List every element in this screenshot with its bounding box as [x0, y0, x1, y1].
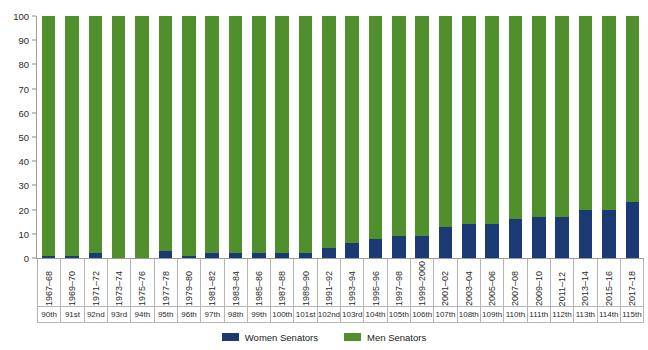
- legend-item[interactable]: Women Senators: [222, 332, 318, 343]
- bar-stack[interactable]: [205, 16, 219, 258]
- bar-stack[interactable]: [602, 16, 616, 258]
- bar-column[interactable]: [270, 16, 293, 258]
- bar-column[interactable]: [130, 16, 153, 258]
- bar-column[interactable]: [37, 16, 60, 258]
- bar-stack[interactable]: [415, 16, 429, 258]
- bar-segment-women-senators[interactable]: [485, 224, 499, 258]
- bar-segment-women-senators[interactable]: [65, 256, 79, 258]
- bar-segment-men-senators[interactable]: [299, 16, 313, 253]
- bar-segment-women-senators[interactable]: [369, 239, 383, 258]
- bar-segment-women-senators[interactable]: [415, 236, 429, 258]
- bar-segment-women-senators[interactable]: [626, 202, 640, 258]
- bar-stack[interactable]: [299, 16, 313, 258]
- bar-segment-women-senators[interactable]: [555, 217, 569, 258]
- bar-column[interactable]: [551, 16, 574, 258]
- bar-segment-women-senators[interactable]: [182, 256, 196, 258]
- bar-column[interactable]: [247, 16, 270, 258]
- bar-column[interactable]: [434, 16, 457, 258]
- bar-column[interactable]: [387, 16, 410, 258]
- bar-segment-men-senators[interactable]: [415, 16, 429, 236]
- bar-stack[interactable]: [345, 16, 359, 258]
- bar-column[interactable]: [597, 16, 620, 258]
- bar-segment-women-senators[interactable]: [532, 217, 546, 258]
- bar-column[interactable]: [527, 16, 550, 258]
- bar-segment-men-senators[interactable]: [485, 16, 499, 224]
- bar-column[interactable]: [84, 16, 107, 258]
- bar-segment-men-senators[interactable]: [345, 16, 359, 243]
- bar-column[interactable]: [154, 16, 177, 258]
- bar-segment-men-senators[interactable]: [112, 16, 126, 258]
- bar-column[interactable]: [504, 16, 527, 258]
- bar-segment-women-senators[interactable]: [275, 253, 289, 258]
- bar-segment-women-senators[interactable]: [159, 251, 173, 258]
- bar-stack[interactable]: [322, 16, 336, 258]
- bar-column[interactable]: [621, 16, 644, 258]
- bar-segment-women-senators[interactable]: [602, 210, 616, 258]
- bar-segment-men-senators[interactable]: [229, 16, 243, 253]
- bar-column[interactable]: [294, 16, 317, 258]
- bar-stack[interactable]: [532, 16, 546, 258]
- bar-segment-men-senators[interactable]: [135, 16, 149, 258]
- bar-stack[interactable]: [579, 16, 593, 258]
- bar-segment-women-senators[interactable]: [392, 236, 406, 258]
- bar-segment-men-senators[interactable]: [392, 16, 406, 236]
- bar-segment-men-senators[interactable]: [322, 16, 336, 248]
- bar-segment-women-senators[interactable]: [345, 243, 359, 258]
- bar-stack[interactable]: [229, 16, 243, 258]
- bar-column[interactable]: [224, 16, 247, 258]
- bar-stack[interactable]: [439, 16, 453, 258]
- bar-stack[interactable]: [555, 16, 569, 258]
- bar-column[interactable]: [574, 16, 597, 258]
- bar-segment-women-senators[interactable]: [205, 253, 219, 258]
- bar-segment-men-senators[interactable]: [439, 16, 453, 227]
- bar-segment-women-senators[interactable]: [439, 227, 453, 258]
- bar-segment-women-senators[interactable]: [299, 253, 313, 258]
- bar-segment-women-senators[interactable]: [322, 248, 336, 258]
- bar-stack[interactable]: [42, 16, 56, 258]
- bar-stack[interactable]: [182, 16, 196, 258]
- bar-stack[interactable]: [65, 16, 79, 258]
- bar-segment-men-senators[interactable]: [532, 16, 546, 217]
- bar-column[interactable]: [364, 16, 387, 258]
- bar-stack[interactable]: [392, 16, 406, 258]
- bar-segment-men-senators[interactable]: [89, 16, 103, 253]
- bar-column[interactable]: [60, 16, 83, 258]
- bar-segment-women-senators[interactable]: [579, 210, 593, 258]
- bar-column[interactable]: [200, 16, 223, 258]
- bar-stack[interactable]: [275, 16, 289, 258]
- bar-column[interactable]: [177, 16, 200, 258]
- bar-segment-women-senators[interactable]: [89, 253, 103, 258]
- bar-segment-men-senators[interactable]: [159, 16, 173, 251]
- bar-stack[interactable]: [626, 16, 640, 258]
- bar-stack[interactable]: [462, 16, 476, 258]
- bar-stack[interactable]: [89, 16, 103, 258]
- bar-stack[interactable]: [112, 16, 126, 258]
- bar-stack[interactable]: [369, 16, 383, 258]
- bar-segment-men-senators[interactable]: [275, 16, 289, 253]
- bar-segment-women-senators[interactable]: [509, 219, 523, 258]
- bar-column[interactable]: [317, 16, 340, 258]
- bar-segment-men-senators[interactable]: [182, 16, 196, 256]
- bar-segment-men-senators[interactable]: [579, 16, 593, 210]
- bar-segment-men-senators[interactable]: [205, 16, 219, 253]
- bar-segment-men-senators[interactable]: [509, 16, 523, 219]
- bar-column[interactable]: [457, 16, 480, 258]
- bar-segment-women-senators[interactable]: [229, 253, 243, 258]
- bar-segment-men-senators[interactable]: [462, 16, 476, 224]
- bar-stack[interactable]: [509, 16, 523, 258]
- bar-segment-men-senators[interactable]: [555, 16, 569, 217]
- legend-item[interactable]: Men Senators: [344, 332, 426, 343]
- bar-segment-women-senators[interactable]: [462, 224, 476, 258]
- bar-column[interactable]: [107, 16, 130, 258]
- bar-segment-men-senators[interactable]: [42, 16, 56, 256]
- bar-column[interactable]: [481, 16, 504, 258]
- bar-segment-men-senators[interactable]: [602, 16, 616, 210]
- bar-stack[interactable]: [159, 16, 173, 258]
- bar-stack[interactable]: [135, 16, 149, 258]
- bar-stack[interactable]: [485, 16, 499, 258]
- bar-segment-women-senators[interactable]: [252, 253, 266, 258]
- bar-segment-men-senators[interactable]: [626, 16, 640, 202]
- bar-segment-men-senators[interactable]: [65, 16, 79, 256]
- bar-segment-men-senators[interactable]: [369, 16, 383, 239]
- bar-segment-men-senators[interactable]: [252, 16, 266, 253]
